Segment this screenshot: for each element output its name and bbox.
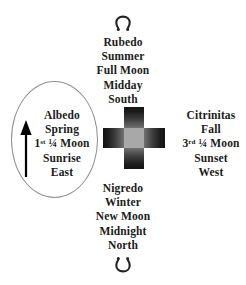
quadrant-line: Nigredo xyxy=(73,181,173,195)
quadrant-right-citrinitas: CitrinitasFall3rd ¼ MoonSunsetWest xyxy=(176,108,246,179)
quadrant-line: 1st ¼ Moon xyxy=(26,136,98,150)
omega-horseshoe-icon xyxy=(111,14,135,32)
quadrant-line: Midday xyxy=(73,78,173,92)
quadrant-line: Citrinitas xyxy=(176,108,246,122)
quadrant-left-albedo: AlbedoSpring1st ¼ MoonSunriseEast xyxy=(26,108,98,179)
quadrant-line: Fall xyxy=(176,122,246,136)
quadrant-bottom-nigredo: NigredoWinterNew MoonMidnightNorth xyxy=(73,181,173,252)
quadrant-line: Sunset xyxy=(176,151,246,165)
quadrant-line: West xyxy=(176,165,246,179)
inverted-omega-horseshoe-icon xyxy=(111,256,135,274)
quadrant-line: South xyxy=(73,92,173,106)
ordinal-suffix: st xyxy=(40,138,45,146)
quadrant-top-rubedo: RubedoSummerFull MoonMiddaySouth xyxy=(73,35,173,106)
cross-center-core xyxy=(124,128,144,148)
quadrant-line: East xyxy=(26,165,98,179)
quadrant-line: Albedo xyxy=(26,108,98,122)
central-gradient-cross xyxy=(103,107,165,169)
ordinal-suffix: rd xyxy=(188,138,195,146)
quadrant-line: Rubedo xyxy=(73,35,173,49)
quadrant-line: Spring xyxy=(26,122,98,136)
quadrant-line: Winter xyxy=(73,195,173,209)
alchemical-cross-diagram: RubedoSummerFull MoonMiddaySouth AlbedoS… xyxy=(0,0,246,285)
quadrant-line: Summer xyxy=(73,49,173,63)
quadrant-line: North xyxy=(73,238,173,252)
quadrant-line: Sunrise xyxy=(26,151,98,165)
quadrant-line: New Moon xyxy=(73,209,173,223)
quadrant-line: Midnight xyxy=(73,224,173,238)
quadrant-line: 3rd ¼ Moon xyxy=(176,136,246,150)
quadrant-line: Full Moon xyxy=(73,63,173,77)
